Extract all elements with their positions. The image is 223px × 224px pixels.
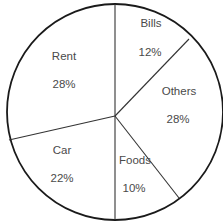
slice-value-rent: 28% <box>52 78 75 90</box>
slice-value-foods: 10% <box>122 182 145 194</box>
slice-label-rent: Rent <box>52 50 77 62</box>
slice-label-bills: Bills <box>140 17 161 29</box>
slice-label-others: Others <box>162 85 197 97</box>
slice-label-foods: Foods <box>119 154 151 166</box>
slice-value-car: 22% <box>50 172 73 184</box>
slice-value-others: 28% <box>166 113 189 125</box>
slice-value-bills: 12% <box>138 46 161 58</box>
pie-chart: Bills 12% Others 28% Foods 10% Car 22% R… <box>0 0 223 224</box>
slice-label-car: Car <box>53 144 72 156</box>
